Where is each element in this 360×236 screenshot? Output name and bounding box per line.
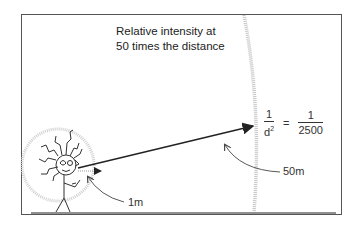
far-distance-label: 50m — [283, 165, 304, 177]
rhs-denominator: 2500 — [298, 124, 322, 136]
lhs-exponent: 2 — [270, 125, 274, 132]
title-line-2: 50 times the distance — [116, 39, 225, 54]
near-callout-arrow — [88, 177, 124, 202]
rhs-numerator: 1 — [308, 110, 314, 121]
far-callout-arrow — [225, 145, 280, 172]
diagram-title: Relative intensity at 50 times the dista… — [116, 24, 225, 54]
rhs-fraction: 1 2500 — [298, 110, 322, 136]
title-line-1: Relative intensity at — [116, 24, 225, 39]
fraction-bar — [264, 121, 274, 122]
inverse-square-formula: 1 d2 = 1 2500 — [264, 109, 323, 138]
fraction-bar — [298, 122, 322, 123]
lhs-numerator: 1 — [266, 109, 272, 120]
far-wavefront-arc — [244, 15, 256, 212]
near-distance-label: 1m — [128, 196, 143, 208]
lhs-denominator: d2 — [264, 123, 274, 138]
lhs-fraction: 1 d2 — [264, 109, 274, 138]
equals-sign: = — [283, 117, 289, 129]
